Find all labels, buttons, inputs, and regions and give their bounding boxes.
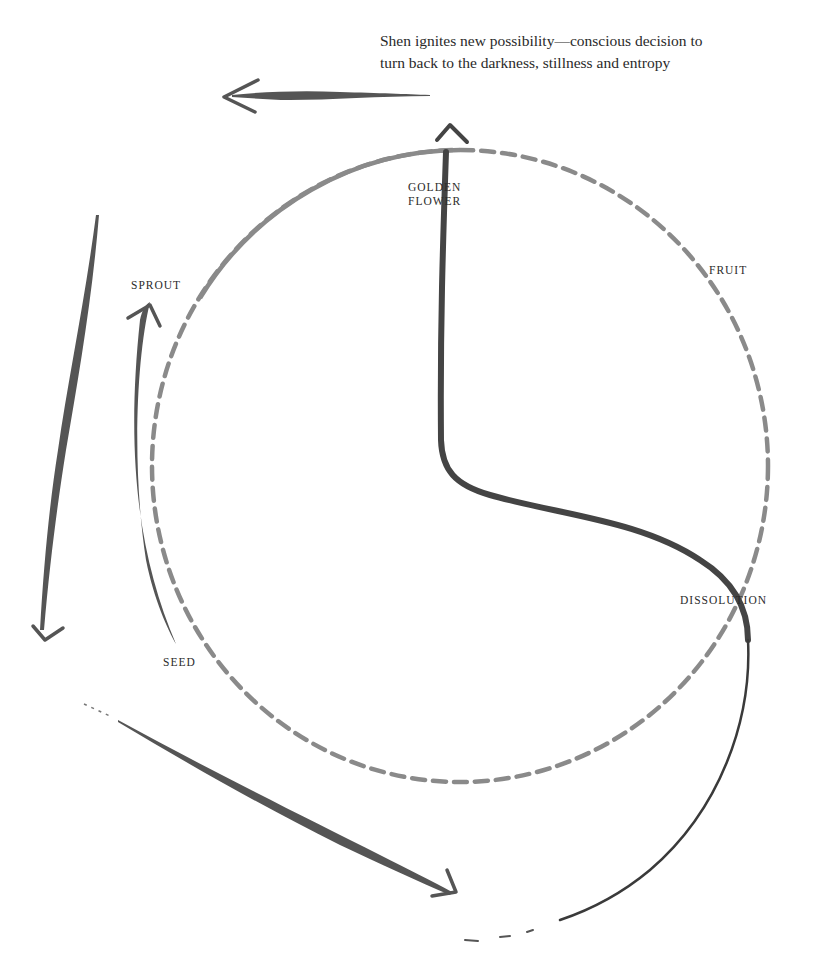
cycle-diagram — [0, 0, 839, 961]
bottom-fade-dashes — [465, 930, 533, 941]
golden-flower-to-dissolution-path — [441, 152, 748, 640]
arrow-up-golden-flower-icon — [437, 125, 467, 142]
dissolution-descent-path — [560, 640, 748, 920]
stage-label-seed: SEED — [163, 655, 196, 669]
cycle-arc-solid — [200, 150, 460, 298]
stage-label-fruit: FRUIT — [709, 263, 747, 277]
diagram-canvas: Shen ignites new possibility—conscious d… — [0, 0, 839, 961]
golden-flower-line-1: GOLDEN — [408, 180, 461, 194]
caption-line-1: Shen ignites new possibility—conscious d… — [380, 30, 839, 52]
cycle-circle-dashed — [152, 150, 768, 782]
stage-label-dissolution: DISSOLUTION — [680, 593, 767, 607]
golden-flower-line-2: FLOWER — [408, 194, 461, 208]
stage-label-golden-flower: GOLDEN FLOWER — [408, 180, 461, 208]
arrow-left-icon — [224, 80, 430, 112]
caption-line-2: turn back to the darkness, stillness and… — [380, 52, 839, 74]
arrow-down-left-icon — [33, 215, 99, 640]
arrow-down-right-icon — [84, 704, 456, 896]
stage-label-sprout: SPROUT — [131, 278, 181, 292]
shen-caption: Shen ignites new possibility—conscious d… — [380, 30, 839, 74]
